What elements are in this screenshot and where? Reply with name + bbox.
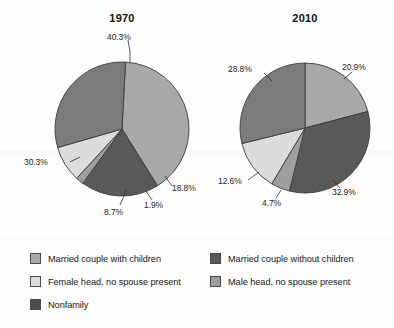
legend-label: Male head, no spouse present	[228, 277, 350, 287]
legend-item: Married couple without children	[210, 248, 354, 269]
leader-line	[344, 72, 352, 79]
legend-item: Married couple with children	[30, 248, 181, 269]
legend-swatch-icon	[30, 276, 41, 287]
legend-column-left: Married couple with children Female head…	[30, 248, 181, 317]
legend-label: Married couple with children	[48, 254, 161, 264]
legend-item: Male head, no spouse present	[210, 271, 354, 292]
leader-line	[248, 172, 259, 180]
leader-line	[276, 190, 281, 198]
pie-label-2010-female-head: 12.6%	[218, 176, 242, 186]
pie-slices-2010	[240, 63, 370, 193]
legend-swatch-icon	[30, 299, 41, 310]
pie-label-2010-male-head: 4.7%	[262, 198, 281, 208]
legend-label: Married couple without children	[228, 254, 354, 264]
legend-column-right: Married couple without children Male hea…	[210, 248, 354, 294]
legend-label: Nonfamily	[48, 300, 88, 310]
legend-item: Nonfamily	[30, 294, 181, 315]
legend-swatch-icon	[210, 253, 221, 264]
pie-label-2010-married-with-children: 20.9%	[342, 62, 366, 72]
legend-item: Female head, no spouse present	[30, 271, 181, 292]
legend-swatch-icon	[30, 253, 41, 264]
pie-label-2010-nonfamily: 28.8%	[228, 64, 252, 74]
legend-label: Female head, no spouse present	[48, 277, 181, 287]
pie-chart-2010	[0, 0, 394, 240]
pie-label-2010-married-without-children: 32.9%	[332, 187, 356, 197]
legend-swatch-icon	[210, 276, 221, 287]
pie-chart-figure: 1970 40.3% 18.8% 1.9% 8.7% 30.3% 2010 20…	[0, 0, 394, 328]
